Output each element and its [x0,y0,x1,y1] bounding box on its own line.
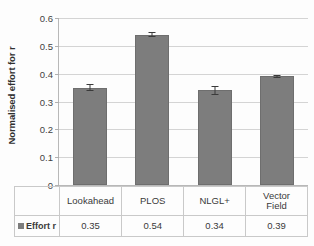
category-label: Field [246,201,307,211]
error-bar [152,32,153,37]
y-axis-tick-label: 0.1 [40,152,53,163]
error-bar [90,84,91,91]
y-axis-tick-label: 0.3 [40,96,53,107]
bar-lookahead[interactable] [73,88,107,185]
category-cell: NLGL+ [184,187,246,216]
value-cell: 0.34 [184,216,246,237]
y-axis-tick-label: 0.5 [40,40,53,51]
category-cell: PLOS [122,187,184,216]
plot-area: 00.10.20.30.40.50.6 [58,18,308,186]
value-cell: 0.54 [122,216,184,237]
y-axis-tick-label: 0.2 [40,124,53,135]
bar-slot [184,18,246,185]
y-axis-tick-label: 0.6 [40,13,53,24]
legend-label: Effort r [26,221,56,231]
category-cell: Lookahead [59,187,122,216]
bar-slot [121,18,183,185]
bar-plos[interactable] [135,35,169,185]
y-axis-title: Normalised effort for r [0,0,22,190]
value-cell: 0.35 [59,216,122,237]
bar-chart-figure: Normalised effort for r 00.10.20.30.40.5… [0,0,314,246]
y-axis-tick-label: 0.4 [40,68,53,79]
series-color-swatch-icon [18,223,24,229]
category-label: Lookahead [60,196,122,206]
legend-spacer-cell [15,187,60,216]
error-bar [214,86,215,94]
bar-vector-field[interactable] [260,76,294,185]
category-label: NLGL+ [184,196,245,206]
error-bar [276,75,277,78]
value-cell: 0.39 [246,216,308,237]
bar-slot [246,18,308,185]
y-axis-title-label: Normalised effort for r [6,46,17,144]
table-row-categories: LookaheadPLOSNLGL+VectorField [15,187,308,216]
legend-cell: Effort r [15,216,60,237]
bar-nlgl-[interactable] [198,90,232,185]
table-row-values: Effort r 0.350.540.340.39 [15,216,308,237]
category-label: PLOS [122,196,183,206]
category-cell: VectorField [246,187,308,216]
bar-slot [59,18,121,185]
data-table: LookaheadPLOSNLGL+VectorField Effort r 0… [14,186,308,237]
